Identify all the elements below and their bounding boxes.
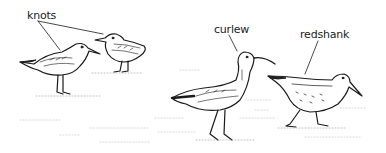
knots-leader-2 — [38, 21, 103, 34]
label-curlew: curlew — [214, 23, 249, 36]
bird-illustration: knots curlew redshank — [0, 0, 386, 153]
knots-leader-1 — [38, 21, 60, 50]
redshank-bird — [268, 74, 362, 128]
birds-drawing — [0, 0, 386, 153]
knot-bird-1 — [20, 44, 100, 97]
curlew-bird — [172, 52, 275, 140]
label-redshank: redshank — [300, 28, 349, 41]
label-knots: knots — [27, 9, 56, 22]
